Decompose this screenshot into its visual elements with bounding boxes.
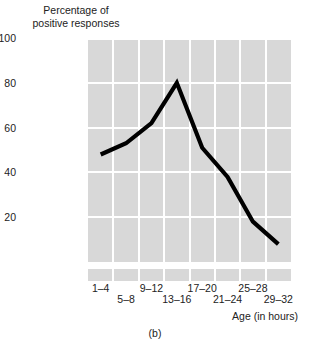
figure-caption: (b) — [0, 327, 310, 339]
x-axis-band — [88, 269, 291, 281]
x-tick-label: 13–16 — [152, 294, 202, 305]
x-band-separator — [214, 269, 216, 281]
data-series-line — [88, 38, 291, 262]
x-tick-label: 21–24 — [203, 294, 253, 305]
x-band-separator — [239, 269, 241, 281]
x-tick-label: 5–8 — [101, 294, 151, 305]
chart-plot-area — [88, 38, 291, 262]
y-tick-label: 20 — [0, 212, 16, 222]
x-tick-label: 29–32 — [253, 294, 303, 305]
y-tick-label: 40 — [0, 167, 16, 177]
x-band-separator — [265, 269, 267, 281]
x-band-separator — [138, 269, 140, 281]
y-tick-label: 100 — [0, 33, 16, 43]
x-band-separator — [189, 269, 191, 281]
x-band-separator — [112, 269, 114, 281]
y-axis-title: Percentage of positive responses — [6, 4, 146, 30]
x-axis-title: Age (in hours) — [232, 310, 298, 322]
y-tick-label: 80 — [0, 78, 16, 88]
y-tick-label: 60 — [0, 123, 16, 133]
x-band-separator — [163, 269, 165, 281]
